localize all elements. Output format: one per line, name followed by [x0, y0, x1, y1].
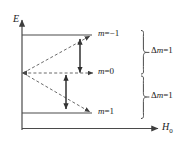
level-label-m-minus-1-value: =−1	[105, 28, 120, 38]
y-axis-label: E	[13, 14, 19, 24]
brace-label-upper: Δm=1	[151, 46, 173, 55]
brace-label-lower-value: =1	[163, 90, 173, 100]
level-label-m-plus-1-value: =1	[105, 106, 115, 116]
level-label-m-plus-1: m=1	[98, 107, 114, 116]
brace-lower	[141, 76, 149, 119]
x-axis-label: H0	[162, 122, 173, 135]
splitting-line-m-plus-1	[23, 73, 90, 112]
brace-label-lower: Δm=1	[151, 91, 173, 100]
level-label-m-zero-value: =0	[105, 66, 115, 76]
level-label-m-minus-1: m=−1	[98, 29, 119, 38]
level-label-m-zero: m=0	[98, 67, 114, 76]
zeeman-energy-level-diagram: E H0 m=−1 m=0 m=1 Δm=1 Δm=1	[0, 0, 195, 152]
brace-upper	[141, 31, 149, 75]
brace-label-upper-value: =1	[163, 45, 173, 55]
x-axis-label-subscript: 0	[169, 127, 173, 135]
